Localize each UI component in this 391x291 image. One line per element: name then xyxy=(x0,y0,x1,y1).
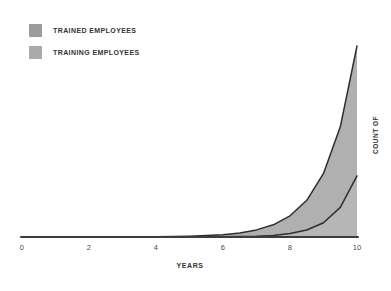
x-tick-label: 8 xyxy=(288,243,292,252)
legend: TRAINED EMPLOYEESTRAINING EMPLOYEES xyxy=(29,24,140,59)
x-tick-label: 4 xyxy=(154,243,158,252)
legend-label: TRAINED EMPLOYEES xyxy=(53,27,136,34)
legend-label: TRAINING EMPLOYEES xyxy=(53,49,140,56)
trained-area xyxy=(22,46,357,237)
x-tick-label: 2 xyxy=(87,243,91,252)
x-tick-label: 6 xyxy=(221,243,225,252)
legend-swatch-icon xyxy=(29,46,42,59)
y-axis-label: COUNT OF xyxy=(372,116,379,154)
x-tick-label: 0 xyxy=(20,243,24,252)
x-tick-label: 10 xyxy=(353,243,362,252)
legend-swatch-icon xyxy=(29,24,42,37)
employee-growth-chart: TRAINED EMPLOYEESTRAINING EMPLOYEES 0246… xyxy=(0,0,391,291)
x-axis-label: YEARS xyxy=(176,262,203,269)
legend-item: TRAINING EMPLOYEES xyxy=(29,46,140,59)
legend-item: TRAINED EMPLOYEES xyxy=(29,24,140,37)
